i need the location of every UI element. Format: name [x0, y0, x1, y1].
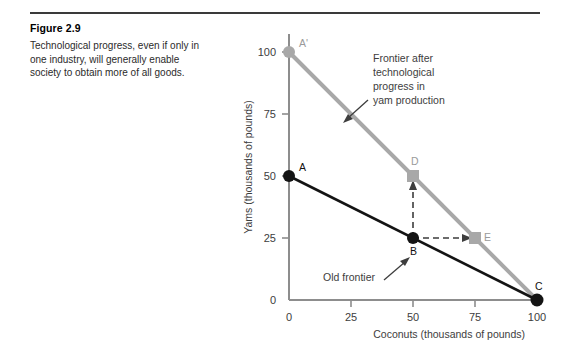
- y-tick-label-100: 100: [258, 46, 276, 58]
- point-label-e: E: [484, 231, 491, 243]
- point-marker-a: [283, 170, 295, 182]
- y-axis-title: Yams (thousands of pounds): [242, 100, 254, 233]
- figure-caption: Figure 2.9 Technological progress, even …: [30, 22, 210, 80]
- b-to-e-arrow: [413, 234, 472, 242]
- x-tick-label-50: 50: [407, 311, 419, 323]
- point-marker-b: [407, 232, 419, 244]
- x-tick-label-0: 0: [286, 311, 292, 323]
- point-label-c: C: [535, 280, 543, 292]
- figure-number: Figure 2.9: [30, 22, 210, 35]
- new-frontier-annotation: Frontier after technological progress in…: [343, 52, 445, 123]
- point-label-a: A: [299, 161, 306, 173]
- y-tick-label-50: 50: [264, 170, 276, 182]
- point-marker-c: [531, 294, 544, 307]
- point-marker-d: [407, 170, 419, 182]
- point-marker-a-prime: [283, 46, 295, 58]
- x-tick-label-25: 25: [345, 311, 357, 323]
- point-label-a-prime: A': [299, 37, 308, 49]
- b-to-d-arrow: [409, 180, 417, 238]
- point-marker-e: [469, 232, 481, 244]
- new-frontier-annotation-line-3: progress in: [373, 80, 425, 92]
- old-frontier-annotation-line-1: Old frontier: [323, 271, 375, 283]
- y-tick-label-75: 75: [264, 108, 276, 120]
- old-frontier-annotation: Old frontier: [323, 257, 410, 283]
- x-tick-label-100: 100: [528, 311, 546, 323]
- chart-svg: 100 75 50 25 0 0 25 50 75 100 Coconuts (…: [228, 8, 568, 342]
- x-tick-label-75: 75: [469, 311, 481, 323]
- new-frontier-annotation-line-2: technological: [373, 66, 434, 78]
- x-axis-title: Coconuts (thousands of pounds): [373, 328, 525, 340]
- figure-caption-text: Technological progress, even if only in …: [30, 39, 210, 80]
- new-frontier-annotation-line-4: yam production: [373, 94, 445, 106]
- point-label-b: B: [410, 245, 417, 257]
- y-tick-label-25: 25: [264, 232, 276, 244]
- new-frontier-annotation-line-1: Frontier after: [373, 52, 434, 64]
- y-tick-label-0: 0: [270, 294, 276, 306]
- production-possibilities-chart: 100 75 50 25 0 0 25 50 75 100 Coconuts (…: [228, 8, 568, 342]
- point-label-d: D: [411, 155, 419, 167]
